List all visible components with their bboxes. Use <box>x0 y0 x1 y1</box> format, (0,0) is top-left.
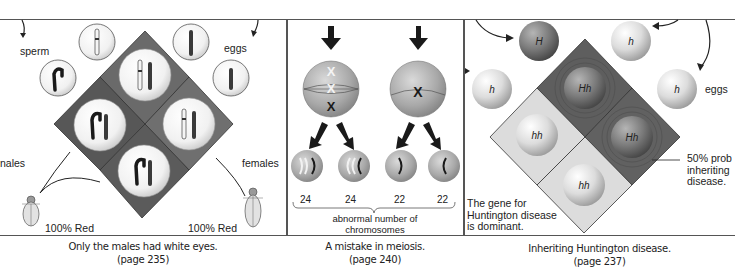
note-line3: is dominant. <box>467 221 557 233</box>
svg-text:hh: hh <box>531 130 543 141</box>
offspring-Hh-top: Hh <box>564 67 606 109</box>
svg-text:hh: hh <box>578 180 590 191</box>
svg-text:H: H <box>535 36 543 47</box>
caption-page: (page 235) <box>0 253 286 266</box>
gamete-h-egg-top: h <box>611 21 651 61</box>
offspring-hh-bottom: hh <box>563 164 605 206</box>
caption-title: Only the males had white eyes. <box>0 240 286 253</box>
note-line1: The gene for <box>467 198 557 210</box>
gamete-h-egg-right: h <box>657 69 697 109</box>
gamete-H-sperm: H <box>519 21 559 61</box>
label-probability: 50% prob inheriting disease. <box>687 153 732 188</box>
svg-text:Hh: Hh <box>626 132 639 143</box>
caption-title: A mistake in meiosis. <box>287 240 463 253</box>
svg-text:h: h <box>628 36 634 47</box>
svg-text:Hh: Hh <box>579 83 592 94</box>
caption-huntington: Inheriting Huntington disease. (page 237… <box>464 242 735 268</box>
svg-text:h: h <box>489 84 495 95</box>
caption-meiosis: A mistake in meiosis. (page 240) <box>287 240 463 266</box>
probability-line3: disease. <box>687 176 732 188</box>
caption-page: (page 240) <box>287 253 463 266</box>
caption-title: Inheriting Huntington disease. <box>464 242 735 255</box>
offspring-hh-left: hh <box>516 114 558 156</box>
label-eggs: eggs <box>705 83 728 95</box>
huntington-punnett-diagram: Hh Hh hh hh H h h h <box>0 0 735 236</box>
label-dominant-note: The gene for Huntington disease is domin… <box>467 198 557 233</box>
caption-page: (page 237) <box>464 255 735 268</box>
gamete-h-sperm: h <box>472 69 512 109</box>
probability-line1: 50% prob <box>687 153 732 165</box>
svg-text:h: h <box>674 84 680 95</box>
offspring-Hh-right: Hh <box>611 116 653 158</box>
caption-sex-linked: Only the males had white eyes. (page 235… <box>0 240 286 266</box>
